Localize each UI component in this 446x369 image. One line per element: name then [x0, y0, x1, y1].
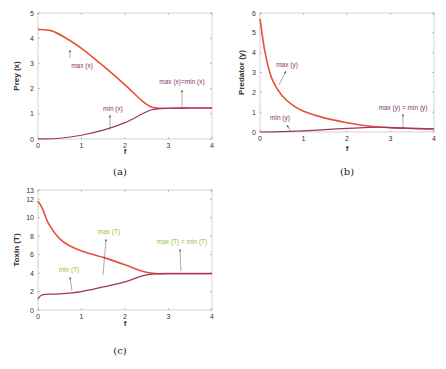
x-axis-label: f [124, 147, 127, 156]
plot-area [38, 190, 212, 310]
chart-b: 012340123456fPredator (y)max (y)min (y)m… [237, 10, 436, 178]
x-tick-label: 1 [80, 142, 84, 149]
x-tick-label: 3 [167, 313, 171, 320]
y-tick-label: 2 [252, 89, 256, 96]
series-min--x- [38, 108, 212, 139]
x-tick-label: 0 [36, 313, 40, 320]
annotation-label: min (x) [103, 105, 123, 113]
arrowhead-icon [402, 114, 404, 116]
series-min--t- [38, 274, 212, 299]
y-tick-label: 3 [30, 60, 34, 67]
y-tick-label: 8 [30, 233, 34, 240]
subfigure-caption: (a) [113, 166, 127, 177]
annotation-label: max (x) [71, 62, 93, 70]
x-tick-label: 1 [80, 313, 84, 320]
y-axis-label: Predator (y) [237, 50, 246, 95]
y-tick-label: 0 [30, 307, 34, 314]
annotation-label: max (T) [98, 228, 120, 236]
annotation-label: min (T) [59, 266, 80, 274]
y-tick-label: 5 [252, 29, 256, 36]
y-tick-label: 4 [252, 49, 256, 56]
annotation-label: max (x)=min (x) [159, 78, 204, 86]
series-max--x- [38, 29, 212, 108]
y-tick-label: 13 [26, 187, 34, 194]
chart-a: 01234012345fPrey (x)max (x)min (x)max (x… [12, 10, 214, 178]
x-tick-label: 3 [167, 142, 171, 149]
y-tick-label: 3 [252, 69, 256, 76]
arrowhead-icon [181, 90, 183, 92]
x-tick-label: 0 [36, 142, 40, 149]
annotation-arrow [180, 249, 181, 271]
annotation-label: max (y) [276, 61, 298, 69]
y-tick-label: 4 [30, 35, 34, 42]
y-tick-label: 10 [26, 214, 34, 221]
x-tick-label: 4 [210, 313, 214, 320]
x-tick-label: 1 [302, 135, 306, 142]
subfigure-caption: (c) [113, 345, 127, 356]
arrowhead-icon [69, 277, 71, 279]
y-tick-label: 0 [30, 136, 34, 143]
arrowhead-icon [69, 50, 71, 52]
x-axis-label: f [124, 319, 127, 328]
arrowhead-icon [105, 239, 107, 241]
annotation-label: max (T) = min (T) [157, 238, 207, 246]
annotation-arrow [279, 71, 286, 85]
plot-area [38, 13, 212, 139]
y-axis-label: Toxin (T) [12, 233, 21, 267]
x-tick-label: 0 [258, 135, 262, 142]
y-tick-label: 6 [252, 10, 256, 17]
arrowhead-icon [179, 249, 181, 251]
y-tick-label: 1 [30, 110, 34, 117]
x-tick-label: 4 [432, 135, 436, 142]
annotation-label: min (y) [270, 114, 290, 122]
arrowhead-icon [109, 115, 111, 117]
y-axis-label: Prey (x) [12, 61, 21, 91]
y-tick-label: 5 [30, 10, 34, 17]
chart-c: 0123402468101213fToxin (T)max (T)min (T)… [12, 187, 214, 357]
y-tick-label: 2 [30, 85, 34, 92]
series-max--y- [260, 19, 434, 129]
x-tick-label: 3 [389, 135, 393, 142]
subfigure-caption: (b) [340, 166, 354, 177]
y-tick-label: 1 [252, 109, 256, 116]
x-tick-label: 2 [345, 135, 349, 142]
y-tick-label: 0 [252, 129, 256, 136]
y-tick-label: 6 [30, 251, 34, 258]
y-tick-label: 4 [30, 270, 34, 277]
annotation-label: max (y) = min (y) [379, 104, 428, 112]
figure-canvas: 01234012345fPrey (x)max (x)min (x)max (x… [0, 0, 446, 369]
x-tick-label: 4 [210, 142, 214, 149]
y-tick-label: 2 [30, 288, 34, 295]
y-tick-label: 12 [26, 196, 34, 203]
x-axis-label: f [346, 144, 349, 153]
